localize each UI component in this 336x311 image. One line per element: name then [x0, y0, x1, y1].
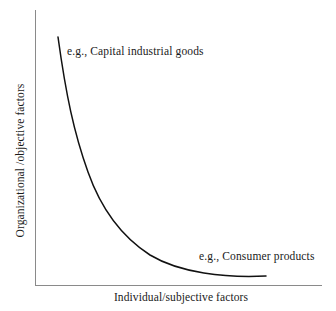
annotation-consumer-products: e.g., Consumer products: [199, 250, 315, 262]
x-axis-title: Individual/subjective factors: [36, 291, 326, 303]
chart-figure: Organizational /objective factors Indivi…: [0, 0, 336, 311]
annotation-capital-industrial-goods: e.g., Capital industrial goods: [67, 45, 204, 57]
y-axis-title: Organizational /objective factors: [11, 53, 29, 268]
trend-curve: [58, 37, 266, 276]
